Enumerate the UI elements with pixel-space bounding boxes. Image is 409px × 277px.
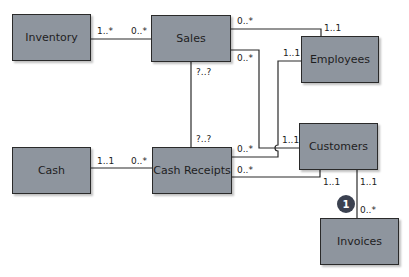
connector-sales-employees bbox=[230, 29, 321, 36]
connector-sales-customers bbox=[230, 50, 299, 148]
cardinality-label: 0..* bbox=[237, 166, 253, 175]
entity-employees[interactable]: Employees bbox=[301, 36, 379, 83]
entity-customers[interactable]: Customers bbox=[299, 123, 378, 170]
entity-label: Cash bbox=[38, 164, 65, 177]
cardinality-label: 1..1 bbox=[360, 178, 377, 187]
cardinality-label: 1..1 bbox=[324, 24, 341, 33]
cardinality-label: 1..1 bbox=[282, 136, 299, 145]
cardinality-label: ?..? bbox=[196, 68, 211, 77]
callout-badge: 1 bbox=[337, 195, 355, 213]
entity-cash[interactable]: Cash bbox=[12, 147, 91, 194]
cardinality-label: 0..* bbox=[237, 17, 253, 26]
entity-sales[interactable]: Sales bbox=[151, 15, 231, 62]
cardinality-label: 1..1 bbox=[283, 49, 300, 58]
entity-cash-receipts[interactable]: Cash Receipts bbox=[152, 147, 232, 194]
cardinality-label: ?..? bbox=[196, 135, 211, 144]
entity-label: Customers bbox=[309, 140, 368, 153]
callout-number: 1 bbox=[343, 199, 350, 210]
cardinality-label: 0..* bbox=[237, 145, 253, 154]
cardinality-label: 1..* bbox=[97, 27, 113, 36]
entity-label: Cash Receipts bbox=[153, 164, 230, 177]
cardinality-label: 0..* bbox=[237, 54, 253, 63]
entity-inventory[interactable]: Inventory bbox=[12, 14, 91, 61]
entity-label: Inventory bbox=[25, 31, 78, 44]
cardinality-label: 1..1 bbox=[323, 178, 340, 187]
cardinality-label: 0..* bbox=[131, 157, 147, 166]
entity-invoices[interactable]: Invoices bbox=[320, 218, 399, 265]
entity-label: Sales bbox=[176, 32, 205, 45]
entity-label: Employees bbox=[310, 53, 370, 66]
cardinality-label: 0..* bbox=[360, 206, 376, 215]
cardinality-label: 0..* bbox=[131, 27, 147, 36]
cardinality-label: 1..1 bbox=[97, 157, 114, 166]
uml-diagram: Inventory Sales Employees Cash Cash Rece… bbox=[0, 0, 409, 277]
entity-label: Invoices bbox=[337, 235, 382, 248]
